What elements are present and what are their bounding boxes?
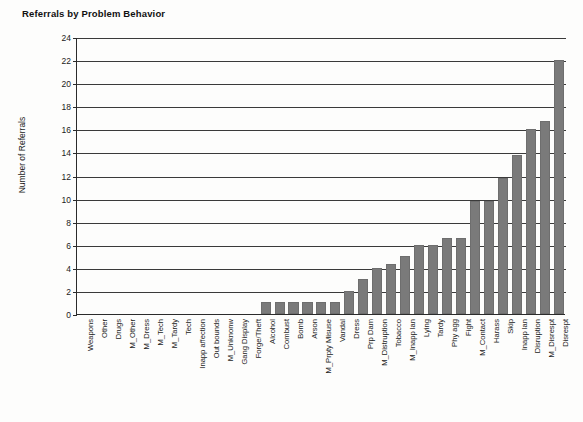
bar[interactable] — [442, 238, 452, 314]
bar-slot — [161, 37, 175, 314]
x-tick-slot: Inapp lan — [509, 317, 523, 421]
plot-area: 242220181614121086420 — [76, 38, 565, 315]
bar[interactable] — [484, 201, 494, 314]
bar-slot — [189, 37, 203, 314]
bar-slot — [412, 37, 426, 314]
y-tick-label: 6 — [31, 242, 71, 251]
bar-slot — [440, 37, 454, 314]
x-tick-slot: Skip — [495, 317, 509, 421]
x-tick-slot: Gang Display — [230, 317, 244, 421]
x-tick-slot: M_Contact — [467, 317, 481, 421]
x-tick-slot: Harass — [481, 317, 495, 421]
bar-slot — [301, 37, 315, 314]
bar-slot — [384, 37, 398, 314]
bar[interactable] — [456, 238, 466, 314]
x-tick-slot: M_Disrespt — [537, 317, 551, 421]
y-tick-label: 4 — [31, 265, 71, 274]
y-tick-label: 16 — [31, 126, 71, 135]
bar[interactable] — [275, 302, 285, 314]
y-tick-mark — [73, 315, 77, 316]
y-tick-label: 2 — [31, 288, 71, 297]
y-tick-label: 0 — [31, 311, 71, 320]
bar[interactable] — [344, 291, 354, 314]
bar-series — [77, 37, 566, 314]
bar-slot — [468, 37, 482, 314]
x-tick-slot: Combust — [272, 317, 286, 421]
bar-slot — [259, 37, 273, 314]
x-tick-slot: Bomb — [286, 317, 300, 421]
bar[interactable] — [386, 264, 396, 314]
y-tick-label: 14 — [31, 149, 71, 158]
x-tick-slot: Tech — [174, 317, 188, 421]
bar[interactable] — [288, 302, 298, 314]
bar-slot — [287, 37, 301, 314]
bar-slot — [398, 37, 412, 314]
y-axis-label: Number of Referrals — [17, 75, 27, 235]
bar-slot — [133, 37, 147, 314]
bar[interactable] — [400, 256, 410, 314]
bar-slot — [454, 37, 468, 314]
x-tick-slot: Tardy — [425, 317, 439, 421]
bar-slot — [105, 37, 119, 314]
bar-slot — [175, 37, 189, 314]
bar-slot — [119, 37, 133, 314]
bar-slot — [217, 37, 231, 314]
x-tick-slot: Lying — [411, 317, 425, 421]
y-tick-label: 22 — [31, 57, 71, 66]
x-tick-slot: M_Inapp lan — [397, 317, 411, 421]
bar-slot — [524, 37, 538, 314]
bar-slot — [552, 37, 566, 314]
x-tick-slot: M_Dress — [132, 317, 146, 421]
x-tick-slot: Dress — [341, 317, 355, 421]
x-tick-slot: Arson — [300, 317, 314, 421]
bar[interactable] — [512, 155, 522, 314]
x-tick-slot: Vandal — [327, 317, 341, 421]
bar[interactable] — [470, 201, 480, 314]
bar-slot — [328, 37, 342, 314]
bar[interactable] — [316, 302, 326, 314]
y-tick-label: 10 — [31, 196, 71, 205]
bar-slot — [273, 37, 287, 314]
x-tick-slot: Phy agg — [439, 317, 453, 421]
x-tick-slot: Fight — [453, 317, 467, 421]
x-tick-slot: Disrespt — [551, 317, 565, 421]
x-tick-slot: M_Tardy — [160, 317, 174, 421]
bar-slot — [231, 37, 245, 314]
x-tick-slot: Tobacco — [383, 317, 397, 421]
bar-slot — [510, 37, 524, 314]
chart-title: Referrals by Problem Behavior — [22, 8, 165, 19]
bar[interactable] — [261, 302, 271, 314]
x-tick-label: Disrespt — [561, 319, 570, 347]
x-tick-slot: M_Distruption — [369, 317, 383, 421]
bar-slot — [203, 37, 217, 314]
bar-slot — [77, 37, 91, 314]
bar[interactable] — [498, 178, 508, 314]
bar-slot — [426, 37, 440, 314]
bar-slot — [482, 37, 496, 314]
x-tick-slot: M_Unknonw — [216, 317, 230, 421]
bar-slot — [538, 37, 552, 314]
bar[interactable] — [540, 121, 550, 314]
bar[interactable] — [554, 60, 564, 314]
y-tick-label: 18 — [31, 103, 71, 112]
bar-slot — [91, 37, 105, 314]
bar[interactable] — [428, 245, 438, 314]
x-tick-slot: M_Tech — [146, 317, 160, 421]
x-tick-slot: M_Prpty Misuse — [313, 317, 327, 421]
x-tick-slot: Disruption — [523, 317, 537, 421]
bar[interactable] — [330, 302, 340, 314]
x-tick-slot: M_Other — [118, 317, 132, 421]
bar[interactable] — [358, 279, 368, 314]
bar[interactable] — [372, 268, 382, 314]
bar[interactable] — [302, 302, 312, 314]
bar-slot — [314, 37, 328, 314]
bar[interactable] — [414, 245, 424, 314]
y-tick-label: 8 — [31, 219, 71, 228]
x-tick-slot: Inapp affection — [188, 317, 202, 421]
y-tick-label: 12 — [31, 173, 71, 182]
bar[interactable] — [526, 129, 536, 314]
y-tick-label: 24 — [31, 34, 71, 43]
x-tick-slot: Forge/Theft — [244, 317, 258, 421]
x-tick-slot: Weapons — [76, 317, 90, 421]
y-tick-label: 20 — [31, 80, 71, 89]
